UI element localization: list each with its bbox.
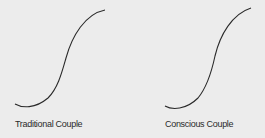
conscious-couple-label: Conscious Couple (165, 119, 233, 129)
s-curves (0, 0, 265, 138)
conscious-couple-curve (165, 8, 251, 108)
traditional-couple-label: Traditional Couple (15, 119, 82, 129)
traditional-couple-curve (15, 10, 105, 107)
